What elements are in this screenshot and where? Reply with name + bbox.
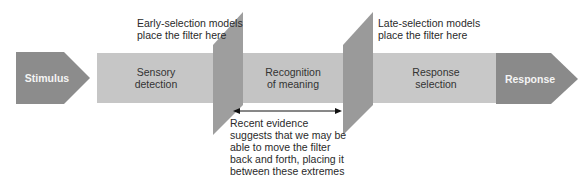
sensory-detection-label: Sensory detection [97,53,215,103]
stimulus-label: Stimulus [16,52,78,104]
double-arrow-icon [233,108,342,114]
recent-line: suggests that we may be [230,129,346,141]
response-selection-label: Response selection [373,53,499,103]
early-note-line1: Early-selection models [137,17,243,29]
early-note-line2: place the filter here [137,29,243,41]
response-selection-line2: selection [415,78,456,90]
late-note-line2: place the filter here [378,29,480,41]
late-selection-note: Late-selection models place the filter h… [378,17,480,41]
recognition-line1: Recognition [265,66,320,78]
recent-line: Recent evidence [230,117,346,129]
recognition-label: Recognition of meaning [243,53,343,103]
late-note-line1: Late-selection models [378,17,480,29]
sensory-line1: Sensory [137,66,176,78]
sensory-line2: detection [135,78,178,90]
recent-evidence-note: Recent evidence suggests that we may be … [230,117,346,177]
response-selection-line1: Response [412,66,459,78]
early-selection-note: Early-selection models place the filter … [137,17,243,41]
recent-line: back and forth, placing it [230,153,346,165]
recent-line: between these extremes [230,165,346,177]
recognition-line2: of meaning [267,78,319,90]
recent-line: able to move the filter [230,141,346,153]
response-label: Response [496,53,564,104]
